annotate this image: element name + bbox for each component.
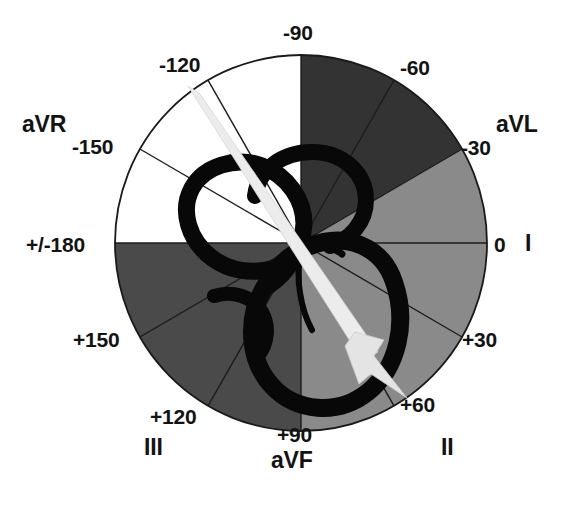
deg-plus-60-label: +60 [400,394,435,415]
deg-minus-120-label: -120 [159,54,200,75]
deg-minus-30-label: -30 [461,137,491,158]
lead-aVF-label: aVF [271,449,313,472]
deg-minus-60-label: -60 [400,57,430,78]
lead-III-label: III [144,436,163,459]
deg-plus-120-label: +120 [150,406,197,427]
lead-aVR-label: aVR [22,113,66,136]
deg-plus-30-label: +30 [462,329,497,350]
lead-I-label: I [525,232,531,255]
deg-minus-90-label: -90 [283,22,313,43]
lead-aVL-label: aVL [496,113,538,136]
deg-plus-150-label: +150 [73,329,120,350]
deg-plus-90-label: +90 [277,424,312,445]
lead-II-label: II [441,436,453,459]
deg-minus-150-label: -150 [72,136,113,157]
deg-pm-180-label: +/-180 [26,234,85,255]
deg-zero-label: 0 [494,234,505,255]
